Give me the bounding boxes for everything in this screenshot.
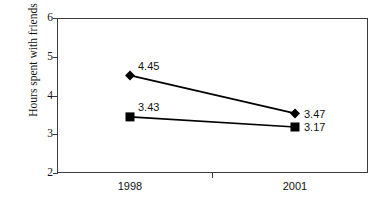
square-marker-1998[interactable]: [126, 112, 135, 121]
point-label-3-43: 3.43: [138, 101, 159, 113]
diamond-marker-1998[interactable]: [125, 70, 135, 80]
point-label-3-47: 3.47: [304, 108, 325, 120]
square-series-line: [130, 117, 295, 127]
point-label-3-17: 3.17: [304, 121, 325, 133]
line-chart: Hours spent with friends 6 5 4 3 2 1998 …: [0, 0, 382, 206]
point-label-4-45: 4.45: [138, 60, 159, 72]
square-marker-2001[interactable]: [291, 123, 300, 132]
diamond-marker-2001[interactable]: [290, 108, 300, 118]
series-layer: [0, 0, 382, 206]
